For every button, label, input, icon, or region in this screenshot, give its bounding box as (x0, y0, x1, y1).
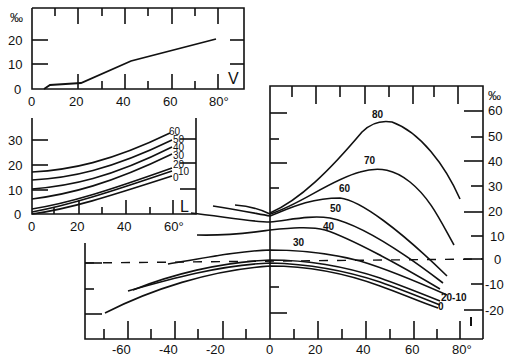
main-curve-label-30: 30 (293, 237, 305, 248)
panel-v-label: V (228, 70, 239, 87)
main-xtick-80: 80° (452, 342, 472, 357)
main-curve-label-20-10: 20-10 (441, 292, 467, 303)
main-ytick-20: 20 (488, 204, 502, 219)
main-xtick-minus40: -40 (159, 342, 178, 357)
panel-v-xtick-60: 60 (163, 94, 177, 109)
main-curve-label-80: 80 (372, 109, 384, 120)
panel-l-curve-label-0: 0 (173, 172, 179, 183)
main-ytick-minus20: -20 (485, 303, 504, 318)
main-curve-30 (168, 250, 447, 295)
panel-l-xtick-60: 60° (164, 219, 184, 234)
panel-l-curve-60 (32, 133, 170, 172)
panel-l-ytick-10: 10 (8, 183, 22, 198)
panel-v-ytick-20: 20 (8, 33, 22, 48)
main-curve-70 (235, 169, 454, 245)
panel-l-ytick-20: 20 (8, 158, 22, 173)
main-ytick-0: 0 (494, 252, 501, 267)
panel-v-ytick-0: 0 (14, 82, 21, 97)
main-ytick-minus10: -10 (485, 277, 504, 292)
panel-v-frame (32, 8, 244, 89)
main-ytick-10: 10 (490, 229, 504, 244)
panel-v-xtick-0: 0 (28, 94, 35, 109)
panel-v-ytick-10: 10 (8, 57, 22, 72)
panel-l-ytick-30: 30 (8, 133, 22, 148)
figure-canvas: ‰ 20 10 0 0 20 40 60 80° V (0, 0, 517, 364)
panel-l-xtick-40: 40 (117, 219, 131, 234)
panel-l-label: L (180, 198, 189, 215)
main-xtick-40: 40 (356, 342, 370, 357)
panel-v-curve (44, 39, 216, 89)
main-ytick-40: 40 (488, 154, 502, 169)
main-curve-0 (105, 266, 438, 313)
panel-l-xtick-20: 20 (70, 219, 84, 234)
panel-main-unit: ‰ (488, 88, 501, 103)
main-curve-label-70: 70 (364, 155, 376, 166)
main-xtick-minus60: -60 (112, 342, 131, 357)
panel-v-xtick-80: 80° (209, 94, 229, 109)
panel-l-xtick-0: 0 (28, 219, 35, 234)
main-ytick-60: 60 (488, 103, 502, 118)
panel-v-unit: ‰ (10, 10, 23, 25)
panel-v-labels: ‰ 20 10 0 0 20 40 60 80° V (8, 10, 239, 109)
main-curve-50 (191, 213, 443, 283)
panel-main (85, 86, 483, 339)
main-xtick-0: 0 (266, 342, 273, 357)
main-xtick-minus20: -20 (206, 342, 225, 357)
panel-l-curve-20 (32, 168, 172, 209)
panel-v-xtick-20: 20 (69, 94, 83, 109)
main-curve-label-50: 50 (330, 203, 342, 214)
main-xtick-20: 20 (308, 342, 322, 357)
panel-main-frame-left (85, 243, 483, 339)
panel-v-xtick-40: 40 (116, 94, 130, 109)
main-curve-label-40: 40 (323, 221, 335, 232)
main-curve-80 (270, 121, 460, 213)
panel-l-curve-label-10: 10 (178, 166, 190, 177)
main-curve-label-0: 0 (438, 301, 444, 312)
panel-v (32, 8, 244, 89)
main-curve-label-60: 60 (339, 183, 351, 194)
main-xtick-60: 60 (405, 342, 419, 357)
panel-l-ytick-0: 0 (14, 207, 21, 222)
main-ytick-30: 30 (488, 179, 502, 194)
main-ytick-50: 50 (488, 129, 502, 144)
